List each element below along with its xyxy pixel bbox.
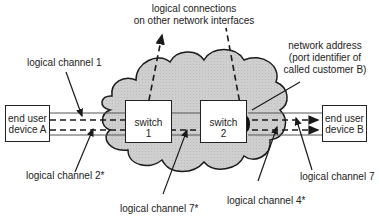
label-line: 1 [125, 128, 172, 139]
label-line: device B [322, 124, 367, 135]
label-line: switch [200, 117, 247, 128]
label-logical-channel-7-star: logical channel 7* [120, 203, 198, 215]
label-line: switch [125, 117, 172, 128]
label-line: logical connections [128, 3, 260, 15]
network-diagram: logical connections on other network int… [0, 0, 380, 217]
switch-1-label: switch 1 [125, 117, 172, 139]
label-logical-channel-7: logical channel 7 [300, 171, 375, 183]
label-logical-channel-2: logical channel 2* [26, 170, 104, 182]
label-line: 2 [200, 128, 247, 139]
label-line: (port identifier of [270, 52, 380, 64]
label-line: on other network interfaces [128, 15, 260, 27]
label-logical-connections: logical connections on other network int… [128, 3, 260, 27]
device-a-label: end user device A [5, 113, 50, 135]
label-line: end user [5, 113, 50, 124]
device-b-label: end user device B [322, 113, 367, 135]
label-logical-channel-1: logical channel 1 [27, 57, 102, 69]
label-line: called customer B) [270, 64, 380, 76]
switch-2-label: switch 2 [200, 117, 247, 139]
label-line: device A [5, 124, 50, 135]
label-line: end user [322, 113, 367, 124]
label-network-address: network address (port identifier of call… [270, 40, 380, 76]
label-line: network address [270, 40, 380, 52]
label-logical-channel-4: logical channel 4* [227, 195, 305, 207]
